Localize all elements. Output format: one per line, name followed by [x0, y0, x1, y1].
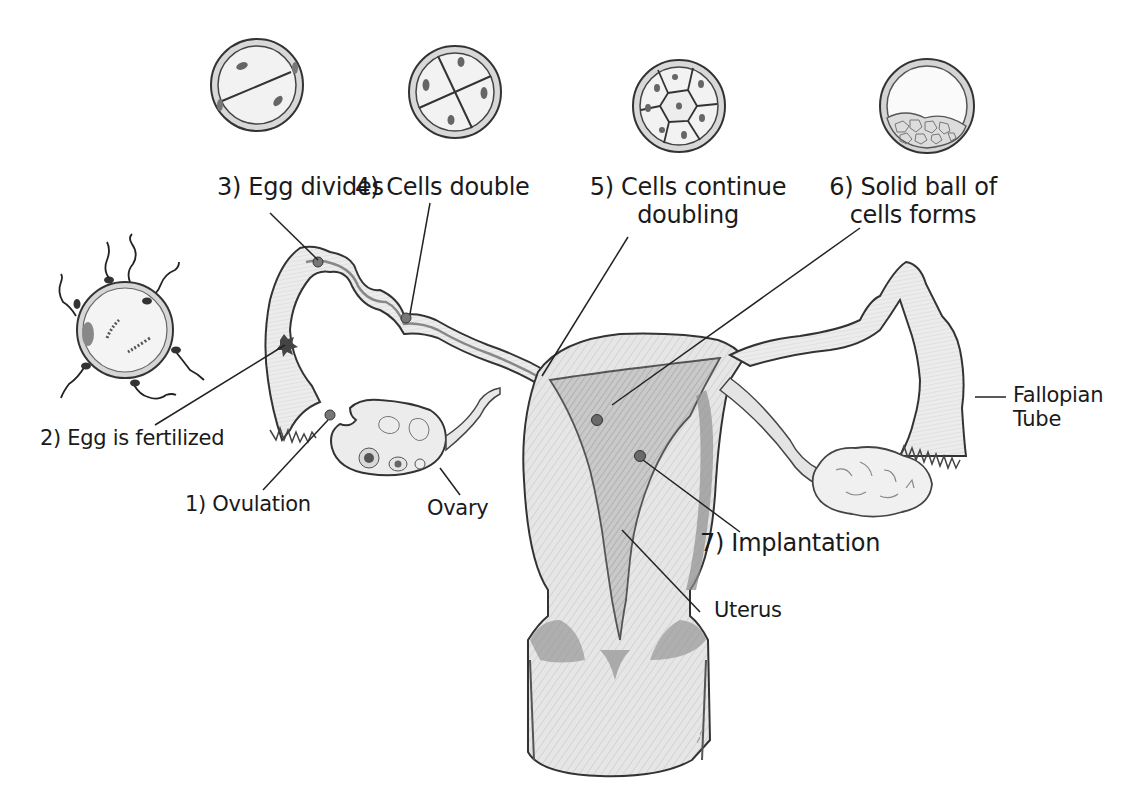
label-solid-ball: 6) Solid ball of cells forms: [808, 174, 1018, 229]
label-egg-fertilized: 2) Egg is fertilized: [40, 426, 224, 450]
label-cells-continue-line2: doubling: [578, 202, 798, 230]
left-ovary: [331, 388, 500, 475]
four-cell-embryo-icon: [409, 46, 501, 138]
label-fallopian-tube: Fallopian Tube: [1013, 383, 1103, 431]
reproductive-diagram: ~~ 3) Egg divides 4) Cells double 5) Cel…: [0, 0, 1147, 801]
label-ovary: Ovary: [427, 496, 488, 520]
two-cell-embryo-icon: [211, 39, 303, 131]
fertilized-egg-icon: [59, 234, 204, 399]
label-solid-ball-line1: 6) Solid ball of: [808, 174, 1018, 202]
label-solid-ball-line2: cells forms: [808, 202, 1018, 230]
label-cells-continue-doubling: 5) Cells continue doubling: [578, 174, 798, 229]
label-implantation: 7) Implantation: [700, 530, 880, 558]
label-fallopian-line2: Tube: [1013, 407, 1103, 431]
right-fallopian-tube: [730, 262, 966, 468]
label-cells-continue-line1: 5) Cells continue: [578, 174, 798, 202]
label-uterus: Uterus: [714, 598, 782, 622]
label-ovulation: 1) Ovulation: [185, 492, 311, 516]
label-fallopian-line1: Fallopian: [1013, 383, 1103, 407]
right-ovary: [720, 378, 932, 517]
label-cells-double: 4) Cells double: [355, 174, 530, 202]
diagram-illustration: ~~: [0, 0, 1147, 801]
blastocyst-icon: [880, 59, 974, 153]
eight-cell-morula-icon: [633, 60, 725, 152]
